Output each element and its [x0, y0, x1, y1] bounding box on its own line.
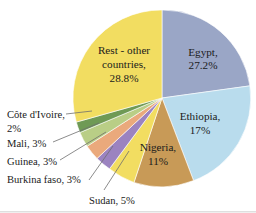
slice-label-egypt-value: 27.2% — [189, 59, 218, 71]
outside-label-mali: Mali, 3% — [7, 138, 47, 149]
outside-label-burkina-faso: Burkina faso, 3% — [7, 174, 81, 185]
slice-label-nigeria-name: Nigeria, — [140, 141, 177, 153]
scan-edge-artifact — [0, 211, 256, 212]
outside-label-cote-divoire-line1: Côte d'Ivoire, — [7, 109, 65, 120]
outside-label-sudan: Sudan, 5% — [89, 195, 135, 206]
slice-label-rest-line1: Rest - other — [98, 44, 150, 56]
pie-chart-figure: Egypt, 27.2% Ethiopia, 17% Nigeria, 11% … — [0, 0, 256, 213]
outside-label-cote-divoire-line2: 2% — [7, 123, 21, 134]
pie-chart-svg: Egypt, 27.2% Ethiopia, 17% Nigeria, 11% … — [0, 0, 256, 213]
outside-label-guinea: Guinea, 3% — [7, 156, 57, 167]
slice-label-egypt-name: Egypt, — [188, 46, 218, 58]
slice-label-nigeria-value: 11% — [148, 155, 168, 167]
slice-label-rest-value: 28.8% — [110, 72, 139, 84]
slice-label-ethiopia-value: 17% — [190, 124, 211, 136]
slice-label-ethiopia-name: Ethiopia, — [180, 110, 221, 122]
slice-label-rest-line2: countries, — [102, 58, 146, 70]
